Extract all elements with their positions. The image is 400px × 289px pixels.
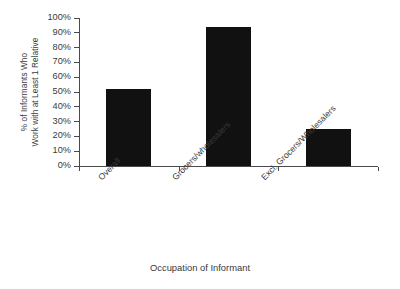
x-axis-tick: [79, 167, 80, 171]
y-axis-tick: [74, 151, 79, 152]
y-axis-tick-label: 80%: [11, 43, 71, 52]
x-axis-category-label: Overall: [96, 156, 122, 182]
y-axis-tick-label: 50%: [11, 87, 71, 96]
x-axis-line: [79, 166, 378, 167]
y-axis-line: [79, 18, 80, 166]
y-axis-tick-label: 20%: [11, 131, 71, 140]
y-axis-tick: [74, 136, 79, 137]
y-axis-tick: [74, 77, 79, 78]
y-axis-tick: [74, 92, 79, 93]
y-axis-tick-label: 90%: [11, 28, 71, 37]
y-axis-tick: [74, 32, 79, 33]
y-axis-tick-label: 60%: [11, 72, 71, 81]
y-axis-tick-label: 30%: [11, 117, 71, 126]
y-axis-tick-label: 0%: [11, 161, 71, 170]
bar-chart-figure: % of Informants Who Work with at Least 1…: [0, 0, 400, 289]
y-axis-tick: [74, 62, 79, 63]
y-axis-tick: [74, 106, 79, 107]
y-axis-tick: [74, 47, 79, 48]
y-axis-tick: [74, 18, 79, 19]
x-axis-tick: [378, 167, 379, 171]
bar: [106, 89, 151, 166]
x-axis-title: Occupation of Informant: [0, 262, 400, 273]
y-axis-tick: [74, 121, 79, 122]
y-axis-tick-label: 10%: [11, 146, 71, 155]
y-axis-tick-label: 100%: [11, 13, 71, 22]
y-axis-tick-label: 70%: [11, 57, 71, 66]
y-axis-tick-label: 40%: [11, 102, 71, 111]
